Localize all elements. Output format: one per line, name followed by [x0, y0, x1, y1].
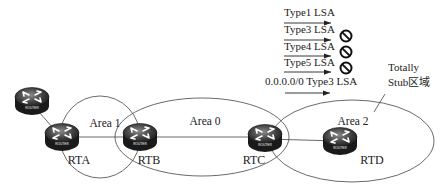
router-label-rta: RTA	[68, 153, 91, 167]
lsa-item-type3: Type3 LSA	[284, 23, 352, 42]
ospf-totally-stub-diagram: ROUTER ROUTER ROUTER ROUTER ROUTER RTA R…	[0, 0, 442, 191]
lsa-item-type4: Type4 LSA	[284, 40, 352, 58]
router-rtc-icon[interactable]: ROUTER	[248, 125, 282, 153]
lsa-label: Type1 LSA	[284, 6, 335, 18]
lsa-label: 0.0.0.0/0 Type3 LSA	[265, 75, 357, 87]
lsa-item-default-route: 0.0.0.0/0 Type3 LSA	[265, 75, 357, 93]
lsa-label: Type4 LSA	[284, 40, 335, 52]
area-label-1: Area 1	[90, 117, 121, 129]
lsa-item-type5: Type5 LSA	[284, 56, 352, 74]
router-badge: ROUTER	[333, 146, 347, 150]
blocked-icon	[341, 47, 352, 58]
router-rtd-icon[interactable]: ROUTER	[323, 128, 357, 156]
blocked-icon	[341, 31, 352, 42]
blocked-icon	[341, 63, 352, 74]
router-badge: ROUTER	[55, 142, 69, 146]
annotation-line1: Totally	[388, 61, 420, 73]
router-badge: ROUTER	[25, 106, 39, 110]
router-rta-icon[interactable]: ROUTER	[45, 124, 79, 152]
router-rtb-icon[interactable]: ROUTER	[123, 124, 157, 152]
router-label-rtb: RTB	[138, 153, 161, 167]
router-label-rtc: RTC	[243, 153, 266, 167]
router-badge: ROUTER	[258, 143, 272, 147]
router-label-rtd: RTD	[360, 153, 384, 167]
area-label-0: Area 0	[190, 115, 221, 127]
router-external-icon[interactable]: ROUTER	[15, 88, 49, 116]
area-label-2: Area 2	[338, 115, 369, 127]
router-badge: ROUTER	[133, 142, 147, 146]
lsa-item-type1: Type1 LSA	[284, 6, 335, 23]
lsa-label: Type5 LSA	[284, 56, 335, 68]
annotation-line2: Stub区域	[388, 76, 430, 88]
lsa-label: Type3 LSA	[284, 23, 335, 35]
